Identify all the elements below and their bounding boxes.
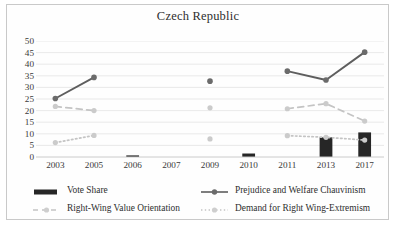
y-axis-tick-label: 40 <box>25 59 34 69</box>
chart-figure: Czech Republic 05101520253035404550 2003… <box>0 0 396 227</box>
chart-legend: Vote Share Right-Wing Value Orientation … <box>10 182 386 216</box>
y-axis-tick-label: 5 <box>29 140 34 150</box>
data-point <box>53 140 58 145</box>
data-point <box>207 136 212 141</box>
x-axis-tick-label: 2003 <box>46 160 64 170</box>
line-series <box>287 104 364 121</box>
x-axis-tick-label: 2007 <box>162 160 180 170</box>
bar <box>242 154 255 157</box>
data-point <box>362 118 367 123</box>
dotted-line-marker-icon <box>200 202 230 214</box>
x-axis-tick-label: 2013 <box>317 160 335 170</box>
legend-item-prejudice-and-welfare-chauvinism[interactable]: Prejudice and Welfare Chauvinism <box>200 183 366 197</box>
legend-label: Prejudice and Welfare Chauvinism <box>235 185 366 195</box>
chart-title: Czech Republic <box>0 9 396 24</box>
x-axis-tick-label: 2017 <box>355 160 373 170</box>
y-axis-tick-label: 0 <box>29 152 34 162</box>
data-point <box>323 77 329 83</box>
legend-label: Demand for Right Wing-Extremism <box>235 203 370 213</box>
bar-swatch-icon <box>32 184 62 196</box>
data-point <box>362 137 367 142</box>
bar <box>320 137 333 157</box>
line-series <box>55 135 94 142</box>
data-point <box>285 68 291 74</box>
y-axis-tick-label: 25 <box>25 94 34 104</box>
solid-line-marker-icon <box>200 184 230 196</box>
y-axis-tick-label: 50 <box>25 36 34 46</box>
data-point <box>53 96 59 102</box>
data-point <box>53 104 58 109</box>
y-axis-tick-label: 30 <box>25 82 34 92</box>
data-point <box>207 105 212 110</box>
line-series <box>55 77 94 98</box>
bar <box>358 132 371 157</box>
legend-item-vote-share[interactable]: Vote Share <box>32 183 108 197</box>
legend-label: Right-Wing Value Orientation <box>67 203 180 213</box>
line-series <box>55 106 94 110</box>
plot-area <box>36 41 384 157</box>
x-axis-tick-label: 2011 <box>278 160 296 170</box>
data-point <box>285 106 290 111</box>
data-point <box>362 49 368 55</box>
data-point <box>323 101 328 106</box>
legend-item-right-wing-value-orientation[interactable]: Right-Wing Value Orientation <box>32 201 180 215</box>
y-axis-tick-label: 45 <box>25 48 34 58</box>
x-axis-tick-label: 2006 <box>123 160 141 170</box>
legend-label: Vote Share <box>67 185 108 195</box>
y-axis-tick-label: 15 <box>25 117 34 127</box>
y-axis-tick-labels: 05101520253035404550 <box>6 41 34 157</box>
y-axis-tick-label: 20 <box>25 106 34 116</box>
data-point <box>91 75 97 81</box>
data-point <box>285 133 290 138</box>
x-axis-tick-label: 2009 <box>201 160 219 170</box>
x-axis-tick-label: 2005 <box>85 160 103 170</box>
dashed-line-marker-icon <box>32 202 62 214</box>
x-axis-tick-labels: 200320052006200720092010201120132017 <box>36 160 384 176</box>
data-point <box>91 133 96 138</box>
data-point <box>207 78 213 84</box>
y-axis-tick-label: 10 <box>25 129 34 139</box>
data-point <box>91 108 96 113</box>
data-point <box>323 135 328 140</box>
x-axis-tick-label: 2010 <box>239 160 257 170</box>
legend-item-demand-for-right-wing-extremism[interactable]: Demand for Right Wing-Extremism <box>200 201 370 215</box>
y-axis-tick-label: 35 <box>25 71 34 81</box>
